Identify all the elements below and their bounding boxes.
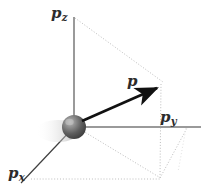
p-z-base: p [51,4,62,22]
diagram-canvas [0,0,204,192]
dotted-origin-to-floor-corner [83,131,159,177]
momentum-vector-arrow [82,88,157,121]
dotted-z-top-to-tip [75,18,163,82]
p-x-base: p [8,164,19,182]
dotted-floor-to-right-corner [160,128,187,178]
p-x-subscript: x [19,171,25,183]
particle-sphere-highlight [65,119,73,125]
particle-sphere [62,115,86,139]
vector-base: p [127,72,138,90]
faint-plane-hints [178,128,186,172]
p-y-base: p [160,108,171,126]
p-x-axis-label: px [8,166,25,181]
dotted-tip-to-floor [160,84,161,178]
momentum-vector-diagram: pz py px p [0,0,204,192]
momentum-vector-label: p [127,74,138,89]
p-z-subscript: z [62,11,68,23]
dotted-right-vertical [178,128,186,172]
p-z-axis-label: pz [51,6,67,21]
p-y-axis-label: py [160,110,176,125]
projection-dotted-lines [31,18,187,179]
p-y-subscript: y [171,115,177,127]
